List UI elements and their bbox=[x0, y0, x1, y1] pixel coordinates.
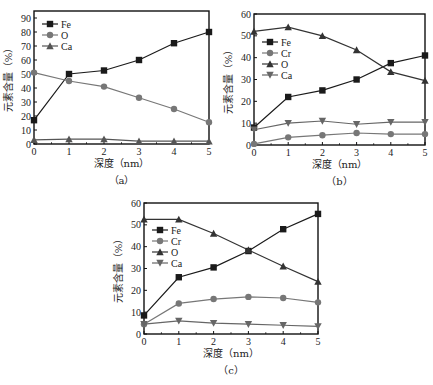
data-point-cr bbox=[251, 141, 257, 147]
data-point-fe bbox=[206, 29, 212, 35]
series-line-cr bbox=[254, 133, 425, 144]
legend-item-ca: Ca bbox=[262, 70, 293, 81]
legend-item-fe: Fe bbox=[42, 19, 72, 30]
x-tick-label: 2 bbox=[102, 146, 107, 157]
panel-caption: （b） bbox=[326, 176, 352, 187]
legend-label: O bbox=[61, 30, 68, 41]
series-line-ca bbox=[254, 121, 425, 130]
x-tick-label: 5 bbox=[207, 146, 212, 157]
data-point-fe bbox=[66, 71, 72, 77]
data-point-o bbox=[314, 278, 321, 285]
chart-b: 0123450102030405060深度（nm）元素含量（%）（b）FeCrO… bbox=[222, 9, 429, 188]
legend-item-ca: Ca bbox=[42, 41, 73, 52]
y-axis-label: 元素含量（%） bbox=[222, 45, 234, 115]
data-point-o bbox=[66, 78, 72, 84]
legend-marker bbox=[47, 32, 53, 38]
x-tick-label: 4 bbox=[172, 146, 177, 157]
legend-label: Fe bbox=[171, 225, 182, 236]
data-point-cr bbox=[319, 132, 325, 138]
legend-label: Cr bbox=[171, 236, 182, 247]
data-point-fe bbox=[353, 76, 359, 82]
x-tick-label: 0 bbox=[142, 336, 147, 347]
x-tick-label: 4 bbox=[388, 147, 393, 158]
data-point-o bbox=[210, 230, 217, 237]
data-point-fe bbox=[319, 87, 325, 93]
y-tick-label: 20 bbox=[21, 111, 31, 122]
legend-label: Ca bbox=[61, 41, 73, 52]
legend-marker bbox=[157, 227, 163, 233]
series-line-o bbox=[34, 73, 209, 123]
data-point-o bbox=[136, 95, 142, 101]
legend-item-o: O bbox=[152, 247, 178, 258]
series-ca bbox=[140, 318, 321, 330]
legend-label: Cr bbox=[281, 48, 292, 59]
legend-label: Ca bbox=[171, 258, 183, 269]
x-tick-label: 2 bbox=[211, 336, 216, 347]
y-tick-label: 10 bbox=[241, 118, 251, 129]
data-point-cr bbox=[353, 130, 359, 136]
y-tick-label: 60 bbox=[21, 55, 31, 66]
y-tick-label: 10 bbox=[21, 125, 31, 136]
x-axis-label: 深度（nm） bbox=[94, 157, 150, 169]
y-tick-label: 80 bbox=[21, 27, 31, 38]
data-point-fe bbox=[141, 312, 147, 318]
y-tick-label: 10 bbox=[131, 307, 141, 318]
data-point-cr bbox=[315, 299, 321, 305]
y-tick-label: 50 bbox=[241, 30, 251, 41]
legend-marker bbox=[47, 21, 53, 27]
data-point-cr bbox=[245, 294, 251, 300]
series-line-ca bbox=[144, 321, 318, 326]
x-tick-label: 4 bbox=[281, 336, 286, 347]
y-tick-label: 40 bbox=[241, 52, 251, 63]
data-point-fe bbox=[171, 40, 177, 46]
x-axis-label: 深度（nm） bbox=[203, 347, 259, 359]
legend-label: Fe bbox=[61, 19, 72, 30]
data-point-cr bbox=[210, 296, 216, 302]
plot-frame bbox=[144, 203, 318, 334]
legend-marker bbox=[157, 238, 163, 244]
y-tick-label: 20 bbox=[131, 285, 141, 296]
legend-label: Fe bbox=[281, 37, 292, 48]
x-tick-label: 5 bbox=[316, 336, 321, 347]
data-point-fe bbox=[210, 264, 216, 270]
y-tick-label: 0 bbox=[136, 329, 141, 340]
y-tick-label: 30 bbox=[21, 97, 31, 108]
x-tick-label: 0 bbox=[32, 146, 37, 157]
data-point-fe bbox=[422, 52, 428, 58]
x-tick-label: 1 bbox=[67, 146, 72, 157]
y-tick-label: 0 bbox=[246, 140, 251, 151]
legend-label: Ca bbox=[281, 70, 293, 81]
chart-a: 0123450102030405060708090深度（nm）元素含量（%）（a… bbox=[2, 11, 213, 186]
data-point-o bbox=[171, 106, 177, 112]
x-tick-label: 5 bbox=[423, 147, 428, 158]
legend-item-ca: Ca bbox=[152, 258, 183, 269]
legend-marker bbox=[267, 39, 273, 45]
legend-marker bbox=[267, 50, 273, 56]
data-point-cr bbox=[388, 131, 394, 137]
data-point-o bbox=[280, 263, 287, 270]
chart-c: 0123450102030405060深度（nm）元素含量（%）（c）FeCrO… bbox=[112, 198, 322, 377]
y-tick-label: 60 bbox=[131, 198, 141, 209]
data-point-o bbox=[101, 83, 107, 89]
y-tick-label: 90 bbox=[21, 13, 31, 24]
data-point-fe bbox=[101, 67, 107, 73]
data-point-fe bbox=[136, 57, 142, 63]
legend-label: O bbox=[171, 247, 178, 258]
x-tick-label: 0 bbox=[252, 147, 257, 158]
legend-item-o: O bbox=[42, 30, 68, 41]
y-tick-label: 30 bbox=[131, 263, 141, 274]
x-tick-label: 2 bbox=[320, 147, 325, 158]
legend-label: O bbox=[281, 59, 288, 70]
figure: 0123450102030405060708090深度（nm）元素含量（%）（a… bbox=[0, 0, 433, 385]
data-point-cr bbox=[176, 300, 182, 306]
x-tick-label: 1 bbox=[286, 147, 291, 158]
panel-caption: （a） bbox=[109, 175, 135, 186]
data-point-cr bbox=[280, 295, 286, 301]
series-o bbox=[140, 216, 321, 285]
y-axis-label: 元素含量（%） bbox=[112, 234, 124, 304]
series-ca bbox=[250, 118, 428, 134]
series-fe bbox=[31, 29, 212, 124]
data-point-fe bbox=[315, 211, 321, 217]
legend-item-fe: Fe bbox=[152, 225, 182, 236]
data-point-o bbox=[206, 119, 212, 125]
